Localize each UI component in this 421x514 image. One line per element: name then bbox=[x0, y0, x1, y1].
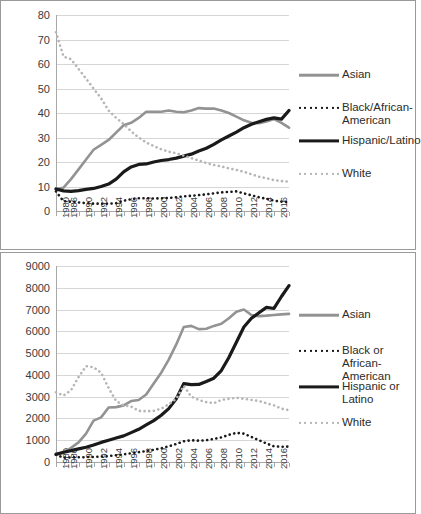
y-axis-tick-label: 50 bbox=[6, 83, 50, 95]
x-axis-tick bbox=[289, 463, 290, 467]
x-axis-tick bbox=[191, 212, 192, 216]
x-axis-tick bbox=[124, 463, 125, 467]
x-axis-tick bbox=[131, 463, 132, 467]
x-axis-tick bbox=[199, 212, 200, 216]
legend-label: Asian bbox=[342, 308, 371, 321]
legend-line-swatch-icon bbox=[299, 134, 339, 148]
legend-label: Hispanic or Latino bbox=[342, 380, 417, 406]
x-axis-tick bbox=[281, 212, 282, 216]
legend-item[interactable]: Black or African- American bbox=[299, 344, 417, 383]
legend-line-swatch-icon bbox=[299, 68, 339, 82]
x-axis-tick bbox=[139, 212, 140, 216]
chart-panel-bottom: 0100020003000400050006000700080009000198… bbox=[0, 252, 416, 514]
legend-line-swatch-icon bbox=[299, 380, 339, 394]
series-line-hispanic-latino bbox=[56, 111, 289, 192]
x-axis-tick bbox=[199, 463, 200, 467]
x-axis-tick bbox=[139, 463, 140, 467]
x-axis-tick bbox=[86, 463, 87, 467]
x-axis-tick bbox=[176, 463, 177, 467]
y-axis-tick-label: 40 bbox=[6, 107, 50, 119]
legend-label: Hispanic/Latino bbox=[342, 134, 421, 147]
x-axis-tick bbox=[251, 463, 252, 467]
x-axis-tick bbox=[259, 212, 260, 216]
y-axis-tick-label: 2000 bbox=[6, 412, 50, 424]
legend-item[interactable]: White bbox=[299, 167, 371, 181]
series-line-black-african-american bbox=[56, 191, 289, 203]
series-line-asian bbox=[56, 108, 289, 189]
x-axis-tick bbox=[79, 212, 80, 216]
y-axis-tick-label: 8000 bbox=[6, 282, 50, 294]
x-axis-tick bbox=[154, 212, 155, 216]
x-axis-tick bbox=[101, 463, 102, 467]
legend-item[interactable]: Asian bbox=[299, 308, 371, 322]
legend-item[interactable]: Asian bbox=[299, 68, 371, 82]
y-axis-tick-label: 4000 bbox=[6, 369, 50, 381]
legend-item[interactable]: Black/African- American bbox=[299, 101, 413, 127]
x-axis-tick bbox=[56, 463, 57, 467]
y-axis-tick-label: 6000 bbox=[6, 325, 50, 337]
x-axis-tick bbox=[191, 463, 192, 467]
x-axis-tick bbox=[161, 463, 162, 467]
x-axis-tick bbox=[236, 463, 237, 467]
x-axis-tick bbox=[71, 212, 72, 216]
y-axis-tick-label: 1000 bbox=[6, 434, 50, 446]
legend-item[interactable]: Hispanic/Latino bbox=[299, 134, 421, 148]
x-axis-tick bbox=[161, 212, 162, 216]
x-axis-tick bbox=[169, 212, 170, 216]
x-axis-tick bbox=[154, 463, 155, 467]
x-axis-tick bbox=[206, 463, 207, 467]
y-axis-tick-label: 9000 bbox=[6, 260, 50, 272]
legend-line-swatch-icon bbox=[299, 167, 339, 181]
y-axis-tick-label: 3000 bbox=[6, 391, 50, 403]
legend-item[interactable]: White bbox=[299, 416, 371, 430]
x-axis-tick bbox=[176, 212, 177, 216]
x-axis-tick bbox=[221, 463, 222, 467]
legend-label: White bbox=[342, 167, 371, 180]
legend-line-swatch-icon bbox=[299, 416, 339, 430]
x-axis-tick bbox=[86, 212, 87, 216]
x-axis-tick bbox=[101, 212, 102, 216]
legend-line-swatch-icon bbox=[299, 344, 339, 358]
x-axis-tick bbox=[184, 212, 185, 216]
series-line-hispanic-or-latino bbox=[56, 286, 289, 455]
x-axis-tick bbox=[214, 463, 215, 467]
x-axis-tick bbox=[94, 463, 95, 467]
x-axis-tick bbox=[146, 212, 147, 216]
legend-line-swatch-icon bbox=[299, 101, 339, 115]
x-axis-tick bbox=[64, 463, 65, 467]
legend-label: Black/African- American bbox=[342, 101, 413, 127]
legend-item[interactable]: Hispanic or Latino bbox=[299, 380, 417, 406]
series-layer bbox=[56, 266, 289, 462]
x-axis-tick bbox=[146, 463, 147, 467]
x-axis-tick bbox=[244, 212, 245, 216]
x-axis-tick bbox=[184, 463, 185, 467]
plot-area-bottom: 0100020003000400050006000700080009000198… bbox=[56, 266, 289, 462]
y-axis-tick-label: 60 bbox=[6, 58, 50, 70]
x-axis-tick bbox=[116, 463, 117, 467]
x-axis-tick bbox=[116, 212, 117, 216]
y-axis-tick-label: 5000 bbox=[6, 347, 50, 359]
y-axis-tick-label: 30 bbox=[6, 132, 50, 144]
x-axis-tick bbox=[214, 212, 215, 216]
x-axis-tick bbox=[94, 212, 95, 216]
x-axis-tick bbox=[266, 463, 267, 467]
x-axis-tick bbox=[124, 212, 125, 216]
legend-label: Asian bbox=[342, 68, 371, 81]
x-axis-tick bbox=[71, 463, 72, 467]
series-layer bbox=[56, 15, 289, 211]
plot-area-top: 0102030405060708019801986199019921994199… bbox=[56, 15, 289, 211]
legend-line-swatch-icon bbox=[299, 308, 339, 322]
x-axis-tick bbox=[131, 212, 132, 216]
y-axis-tick-label: 7000 bbox=[6, 304, 50, 316]
x-axis-tick bbox=[64, 212, 65, 216]
x-axis-tick bbox=[109, 463, 110, 467]
x-axis-tick bbox=[229, 463, 230, 467]
x-axis-tick bbox=[229, 212, 230, 216]
y-axis-tick-label: 10 bbox=[6, 181, 50, 193]
y-axis-tick-label: 80 bbox=[6, 9, 50, 21]
x-axis-tick bbox=[266, 212, 267, 216]
x-axis-tick bbox=[274, 463, 275, 467]
x-axis-tick bbox=[221, 212, 222, 216]
legend-label: White bbox=[342, 416, 371, 429]
x-axis-tick bbox=[79, 463, 80, 467]
